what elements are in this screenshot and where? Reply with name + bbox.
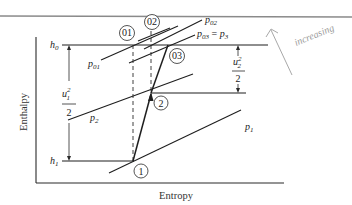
p01-label: p01 bbox=[87, 58, 100, 71]
svg-text:1: 1 bbox=[139, 166, 144, 177]
arrow-up-icon bbox=[67, 45, 71, 50]
state-1: 1 bbox=[134, 164, 148, 178]
handwritten-text: increasing bbox=[293, 22, 336, 48]
hs-diagram: Entropy Enthalpy h0 h1 p02 p03 = p3 p01 … bbox=[0, 0, 352, 205]
isobar-p02-segment bbox=[138, 28, 170, 41]
arrow-up-icon bbox=[236, 45, 240, 50]
y-axis-label: Enthalpy bbox=[18, 92, 29, 131]
u1-numerator: u21 bbox=[62, 86, 71, 102]
p2-label: p2 bbox=[89, 112, 99, 125]
x-axis-label: Entropy bbox=[159, 190, 194, 201]
p03-label: p03 = p3 bbox=[196, 28, 229, 41]
isobar-p01 bbox=[101, 26, 178, 60]
state-01: 01 bbox=[120, 26, 135, 41]
p1-label: p1 bbox=[244, 121, 254, 134]
handwritten-annotation: increasing bbox=[266, 22, 336, 75]
h0-label: h0 bbox=[50, 39, 59, 52]
arrow-down-icon bbox=[67, 156, 71, 161]
isobar-p03 bbox=[129, 35, 195, 63]
u2-numerator: u22 bbox=[233, 55, 242, 70]
u1-dimension: u21 2 bbox=[62, 45, 76, 161]
state-03: 03 bbox=[170, 49, 185, 64]
isobars bbox=[68, 20, 241, 173]
isobar-p2 bbox=[68, 74, 193, 120]
u2-denominator: 2 bbox=[236, 73, 241, 84]
process-1-2 bbox=[133, 94, 151, 161]
svg-text:01: 01 bbox=[122, 27, 132, 38]
state-2: 2 bbox=[154, 96, 168, 110]
u1-denominator: 2 bbox=[67, 107, 72, 118]
svg-text:03: 03 bbox=[172, 50, 182, 61]
state-02: 02 bbox=[145, 15, 160, 30]
u2-dimension: u22 2 bbox=[232, 45, 245, 93]
arrow-down-icon bbox=[236, 88, 240, 93]
top-rule bbox=[0, 16, 352, 17]
svg-text:02: 02 bbox=[147, 16, 157, 27]
h1-label: h1 bbox=[50, 155, 59, 168]
svg-text:2: 2 bbox=[159, 98, 164, 109]
isobar-p1 bbox=[109, 110, 241, 173]
